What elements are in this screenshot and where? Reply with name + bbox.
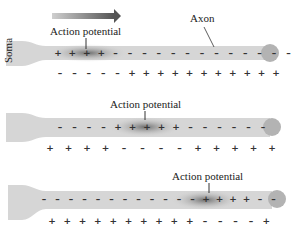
outside-charge-sign: + <box>243 69 251 78</box>
outside-charge-sign: – <box>159 144 164 153</box>
inside-charge-sign: – <box>177 195 182 204</box>
outside-charge-sign: + <box>155 217 163 226</box>
inside-charge-sign: + <box>54 49 62 58</box>
inside-charge-sign: + <box>143 123 151 132</box>
outside-charge-sign: + <box>65 144 73 153</box>
inside-charge-sign: + <box>129 123 137 132</box>
outside-charge-sign: + <box>157 69 165 78</box>
inside-charge-sign: – <box>58 123 63 132</box>
outside-charge-sign: + <box>215 69 223 78</box>
inside-charge-sign: + <box>158 123 166 132</box>
inside-charge-sign: – <box>214 49 219 58</box>
inside-charge-sign: – <box>96 195 101 204</box>
inside-charge-sign: – <box>286 49 291 58</box>
inside-charge-sign: – <box>109 195 114 204</box>
inside-charge-sign: – <box>272 49 277 58</box>
inside-charge-sign: – <box>150 195 155 204</box>
outside-charge-sign: + <box>268 144 276 153</box>
outside-charge-sign: + <box>48 217 56 226</box>
outside-charge-sign: + <box>94 217 102 226</box>
inside-charge-sign: – <box>113 49 118 58</box>
outside-charge-sign: + <box>194 144 202 153</box>
outside-charge-sign: + <box>231 144 239 153</box>
outside-charge-sign: + <box>143 69 151 78</box>
inside-charge-sign: – <box>185 49 190 58</box>
outside-charge-sign: + <box>186 217 194 226</box>
inside-charge-sign: – <box>229 49 234 58</box>
outside-charge-sign: + <box>200 69 208 78</box>
inside-charge-sign: – <box>257 49 262 58</box>
outside-charge-sign: – <box>101 69 106 78</box>
inside-charge-sign: – <box>82 195 87 204</box>
inside-charge-sign: – <box>157 49 162 58</box>
inside-charge-sign: – <box>200 49 205 58</box>
inside-charge-sign: – <box>128 49 133 58</box>
outside-charge-sign: + <box>250 144 258 153</box>
action-potential-label-1: Action potential <box>50 25 121 37</box>
inside-charge-sign: – <box>258 195 263 204</box>
inside-charge-sign: – <box>72 123 77 132</box>
axon-label: Axon <box>190 12 214 24</box>
outside-charge-sign: – <box>249 217 254 226</box>
inside-charge-sign: – <box>232 123 237 132</box>
inside-charge-sign: – <box>243 49 248 58</box>
outside-charge-sign: + <box>258 69 266 78</box>
inside-charge-sign: – <box>271 195 276 204</box>
outside-charge-sign: + <box>102 144 110 153</box>
inside-charge-sign: – <box>261 123 266 132</box>
inside-charge-sign: – <box>246 123 251 132</box>
inside-charge-sign: + <box>202 195 210 204</box>
outside-charge-sign: + <box>128 69 136 78</box>
inside-charge-sign: + <box>229 195 237 204</box>
outside-charge-sign: – <box>122 144 127 153</box>
inside-charge-sign: + <box>172 123 180 132</box>
outside-charge-sign: + <box>140 217 148 226</box>
axon-panel-1 <box>6 27 279 66</box>
outside-charge-sign: – <box>140 144 145 153</box>
outside-charge-sign: – <box>218 217 223 226</box>
outside-charge-sign: + <box>125 217 133 226</box>
inside-charge-sign: – <box>190 195 195 204</box>
outside-charge-sign: – <box>72 69 77 78</box>
outside-charge-sign: – <box>58 69 63 78</box>
inside-charge-sign: – <box>123 195 128 204</box>
soma-label: Soma <box>2 38 14 63</box>
outside-charge-sign: + <box>171 69 179 78</box>
outside-charge-sign: + <box>64 217 72 226</box>
inside-charge-sign: + <box>216 195 224 204</box>
inside-charge-sign: – <box>142 49 147 58</box>
outside-charge-sign: – <box>203 217 208 226</box>
inside-charge-sign: – <box>69 195 74 204</box>
outside-charge-sign: + <box>213 144 221 153</box>
outside-charge-sign: + <box>171 217 179 226</box>
inside-charge-sign: + <box>69 49 77 58</box>
inside-charge-sign: – <box>171 49 176 58</box>
inside-charge-sign: – <box>101 123 106 132</box>
outside-charge-sign: + <box>186 69 194 78</box>
inside-charge-sign: + <box>97 49 105 58</box>
inside-charge-sign: – <box>136 195 141 204</box>
outside-charge-sign: – <box>177 144 182 153</box>
outside-charge-sign: + <box>83 144 91 153</box>
inside-charge-sign: – <box>188 123 193 132</box>
outside-charge-sign: + <box>272 69 280 78</box>
outside-charge-sign: + <box>229 69 237 78</box>
outside-charge-sign: + <box>109 217 117 226</box>
inside-charge-sign: – <box>55 195 60 204</box>
action-potential-label-3: Action potential <box>172 170 243 182</box>
outside-charge-sign: – <box>115 69 120 78</box>
outside-charge-sign: – <box>87 69 92 78</box>
inside-charge-sign: + <box>114 123 122 132</box>
inside-charge-sign: – <box>87 123 92 132</box>
inside-charge-sign: – <box>42 195 47 204</box>
inside-charge-sign: + <box>83 49 91 58</box>
inside-charge-sign: – <box>217 123 222 132</box>
outside-charge-sign: – <box>233 217 238 226</box>
outside-charge-sign: + <box>46 144 54 153</box>
inside-charge-sign: + <box>243 195 251 204</box>
action-potential-label-2: Action potential <box>110 98 181 110</box>
direction-arrow-icon <box>52 9 121 23</box>
outside-charge-sign: + <box>262 217 270 226</box>
outside-charge-sign: + <box>79 217 87 226</box>
inside-charge-sign: – <box>163 195 168 204</box>
